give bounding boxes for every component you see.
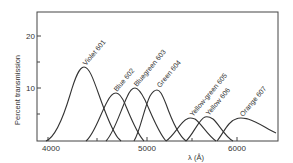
label-violet-601: Violet 601	[81, 38, 106, 66]
plot-frame	[37, 12, 278, 141]
ytick-20: 20	[26, 32, 35, 41]
xtick-4000: 4000	[42, 144, 60, 153]
transmission-chart: 20 10 Percent transmission 4000 5000 600…	[0, 0, 293, 163]
curve-green-604	[134, 90, 186, 141]
label-orange-607: Orange 607	[238, 85, 268, 119]
y-axis-label: Percent transmission	[13, 55, 22, 125]
x-axis-label: λ (Å)	[188, 153, 204, 162]
xtick-5000: 5000	[138, 144, 156, 153]
curve-orange-607	[217, 118, 276, 141]
ytick-10: 10	[26, 84, 35, 93]
label-green-604: Green 604	[155, 59, 182, 89]
xtick-6000: 6000	[228, 144, 246, 153]
curve-violet-601	[46, 67, 121, 141]
y-axis	[37, 36, 41, 114]
